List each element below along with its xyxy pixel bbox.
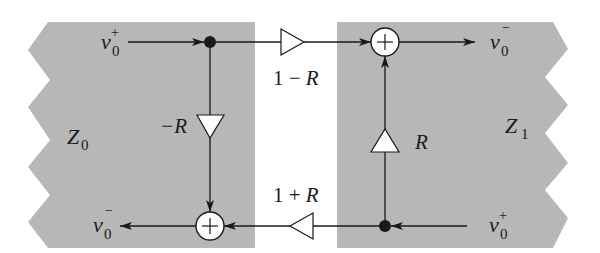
top-transmission-gain-label: 1 − R (273, 66, 319, 90)
left-reflection-gain-label: −R (160, 114, 187, 138)
left-impedance-label: Z (67, 124, 80, 149)
right-impedance-sub: 1 (521, 126, 529, 142)
right-section-panel (337, 22, 568, 248)
left-input-wave-label: v (101, 29, 111, 54)
right-output-wave-sup: − (502, 20, 510, 35)
left-input-wave-sub: 0 (112, 43, 120, 59)
left-input-wave-sup: + (111, 25, 119, 40)
right-reflection-gain-label: R (414, 130, 428, 154)
scattering-junction-diagram: v 0 + v 0 − v 0 − v 0 + Z 0 Z 1 −R R 1 −… (0, 0, 600, 253)
bottom-transmission-gain-label: 1 + R (273, 183, 319, 207)
right-input-wave-sup: + (499, 208, 507, 223)
right-output-wave-label: v (490, 29, 500, 54)
left-output-wave-label: v (93, 212, 103, 237)
left-section-panel (28, 22, 255, 248)
bottom-transmission-gain-triangle (290, 213, 313, 239)
top-transmission-gain-triangle (281, 29, 304, 55)
right-input-wave-label: v (489, 212, 499, 237)
right-input-wave-sub: 0 (500, 226, 508, 242)
left-output-wave-sup: − (105, 203, 113, 218)
right-output-wave-sub: 0 (501, 43, 509, 59)
right-impedance-label: Z (505, 113, 518, 138)
left-impedance-sub: 0 (81, 137, 89, 153)
left-output-wave-sub: 0 (104, 226, 112, 242)
